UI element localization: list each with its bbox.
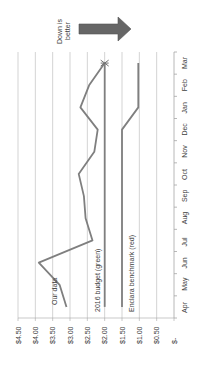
- month-tick-label: Dec: [181, 123, 188, 136]
- month-tick-label: Apr: [181, 301, 189, 313]
- dollar-tick-label: $2.00: [101, 326, 108, 344]
- month-tick-label: Jul: [181, 237, 188, 246]
- month-tick-label: Jan: [181, 102, 188, 113]
- dollar-tick-label: $1.50: [119, 326, 126, 344]
- dollar-tick-label: $3.00: [67, 326, 74, 344]
- month-tick-label: Jun: [181, 257, 188, 268]
- rotated-line-chart: $4.50$4.00$3.50$3.00$2.50$2.00$1.50$1.00…: [0, 0, 200, 382]
- month-tick-label: May: [181, 277, 189, 291]
- benchmark-label: Enclara benchmark (red): [128, 235, 136, 312]
- budget-label: 2016 budget (green): [94, 249, 102, 312]
- month-tick-label: Nov: [181, 145, 188, 158]
- month-tick-label: Aug: [181, 212, 189, 225]
- dollar-axis-labels: $4.50$4.00$3.50$3.00$2.50$2.00$1.50$1.00…: [15, 326, 178, 344]
- down-arrow-icon: [79, 17, 131, 41]
- month-tick-label: Sep: [181, 190, 189, 203]
- month-tick-label: Feb: [181, 79, 188, 91]
- dollar-tick-label: $4.50: [15, 326, 22, 344]
- month-axis-labels: AprMayJunJulAugSepOctNovDecJanFebMar: [181, 56, 189, 313]
- month-tick-label: Oct: [181, 169, 188, 180]
- our-data-label: Our data: [51, 278, 58, 305]
- dollar-tick-label: $1.00: [136, 326, 143, 344]
- month-tick-label: Mar: [181, 56, 188, 69]
- dollar-tick-label: $2.50: [84, 326, 91, 344]
- down-is-better-line2: better: [64, 21, 71, 40]
- dollar-tick-label: $3.50: [49, 326, 56, 344]
- dollar-tick-label: $-: [171, 337, 178, 344]
- dollar-tick-label: $4.00: [32, 326, 39, 344]
- series-lines: [39, 60, 139, 307]
- dollar-tick-label: $0.50: [153, 326, 160, 344]
- down-is-better-line1: Down is: [56, 19, 63, 44]
